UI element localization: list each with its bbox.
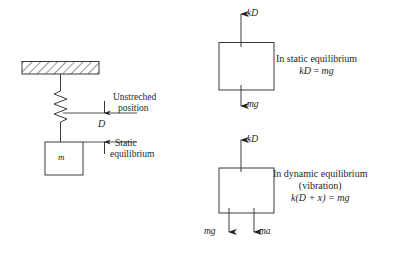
- static-equilibrium-label-line2: equilibrium: [110, 149, 154, 160]
- dynamic-equilibrium-caption-line1: In dynamic equilibrium: [273, 168, 367, 180]
- static-fbd-box: [219, 43, 274, 91]
- physics-figure: Unstreched position D Static equilibrium…: [0, 0, 399, 254]
- dynamic-fbd-force-ma-label: ma: [259, 226, 271, 237]
- static-equilibrium-caption: In static equilibrium kD = mg: [276, 53, 357, 77]
- unstretched-position-label-line1: Unstreched: [113, 92, 156, 102]
- static-fbd-force-kD-label: kD: [247, 8, 258, 19]
- static-equilibrium-label-line1: Static: [115, 138, 137, 148]
- spring-assembly: [54, 74, 67, 142]
- static-fbd-force-mg-label: mg: [247, 99, 259, 110]
- unstretched-position-label: Unstreched position: [113, 92, 156, 114]
- dimension-D-label: D: [98, 118, 105, 130]
- static-equilibrium-caption-line1: In static equilibrium: [276, 53, 357, 65]
- dynamic-equilibrium-caption: In dynamic equilibrium (vibration) k(D +…: [273, 168, 367, 203]
- static-equation-relation: =: [311, 65, 322, 76]
- static-equilibrium-label: Static equilibrium: [115, 138, 154, 160]
- dynamic-equilibrium-equation: k(D + x) = mg: [273, 192, 367, 204]
- dynamic-fbd-force-kD-label: kD: [247, 134, 258, 145]
- static-equilibrium-equation: kD = mg: [276, 65, 357, 77]
- static-equation-rhs: mg: [322, 65, 334, 76]
- dynamic-equilibrium-caption-line2: (vibration): [273, 180, 367, 192]
- figure-vector-layer: [0, 0, 399, 254]
- dynamic-fbd-force-mg-label: mg: [204, 226, 216, 237]
- unstretched-position-label-line2: position: [113, 103, 156, 114]
- mass-block-label: m: [58, 152, 65, 163]
- dynamic-fbd-box: [219, 168, 274, 213]
- ceiling-support: [22, 62, 99, 75]
- static-equation-lhs: kD: [299, 65, 311, 76]
